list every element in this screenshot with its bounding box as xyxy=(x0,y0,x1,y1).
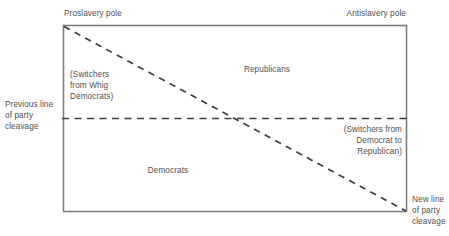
label-antislavery-pole: Antislavery pole xyxy=(311,8,406,19)
label-previous-line-of-party-cleavage: Previous line of party cleavage xyxy=(5,99,61,133)
label-democrats-region: Democrats xyxy=(128,165,208,176)
label-proslavery-pole: Proslavery pole xyxy=(64,8,122,19)
diagram-canvas xyxy=(0,0,449,236)
party-cleavage-diagram: Proslavery pole Antislavery pole Previou… xyxy=(0,0,449,236)
label-republicans-region: Republicans xyxy=(227,64,307,75)
label-switchers-from-democrat-to-republican: (Switchers from Democrat to Republican) xyxy=(300,124,402,158)
label-new-line-of-party-cleavage: New line of party cleavage xyxy=(412,194,449,228)
label-switchers-from-whig-democrats: (Switchers from Whig Democrats) xyxy=(70,69,140,103)
